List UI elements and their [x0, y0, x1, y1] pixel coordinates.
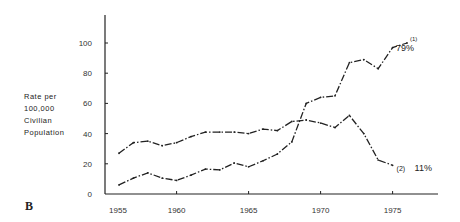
x-tick-label: 1960: [168, 206, 186, 215]
data-point: [377, 159, 379, 161]
data-point: [305, 103, 307, 105]
series-2-name: (2): [397, 165, 406, 173]
data-point: [334, 95, 336, 97]
data-point: [219, 169, 221, 171]
y-axis-label-line: Population: [24, 127, 64, 139]
data-point: [349, 62, 351, 64]
data-point: [291, 121, 293, 123]
data-point: [233, 162, 235, 164]
y-tick-label: 100: [79, 39, 93, 48]
data-point: [190, 136, 192, 138]
data-point: [133, 177, 135, 179]
series-1-name: (1): [410, 36, 417, 42]
data-point: [205, 168, 207, 170]
data-point: [161, 177, 163, 179]
data-point: [176, 180, 178, 182]
data-point: [320, 122, 322, 124]
data-point: [277, 153, 279, 155]
data-point: [305, 119, 307, 121]
data-point: [392, 164, 394, 166]
data-point: [363, 59, 365, 61]
data-point: [262, 160, 264, 162]
y-tick-label: 60: [83, 99, 92, 108]
series-2-annotation: 11%: [415, 163, 432, 173]
data-point: [377, 68, 379, 70]
series-line-2: [119, 115, 393, 165]
data-point: [248, 166, 250, 168]
data-point: [291, 141, 293, 143]
series-1-annotation: 79%: [396, 43, 414, 53]
y-axis-label-line: Rate per: [24, 91, 64, 103]
series-line-1: [119, 43, 407, 185]
data-point: [176, 142, 178, 144]
y-tick-label: 0: [88, 190, 93, 199]
x-tick-label: 1970: [312, 206, 330, 215]
y-axis-label-line: 100,000: [24, 103, 64, 115]
y-axis-label-line: Civilian: [24, 115, 64, 127]
y-tick-label: 20: [83, 160, 92, 169]
data-point: [392, 47, 394, 49]
data-point: [118, 152, 120, 154]
data-point: [320, 96, 322, 98]
data-point: [363, 133, 365, 135]
data-point: [262, 128, 264, 130]
y-tick-label: 40: [83, 130, 92, 139]
data-point: [349, 115, 351, 117]
data-point: [219, 131, 221, 133]
chart: 02040608010019551960196519701975(1)79%(2…: [0, 0, 460, 222]
data-point: [190, 174, 192, 176]
data-point: [147, 172, 149, 174]
panel-label: B: [25, 199, 33, 214]
x-tick-label: 1955: [109, 206, 127, 215]
data-point: [161, 145, 163, 147]
x-tick-label: 1975: [384, 206, 402, 215]
data-point: [334, 127, 336, 129]
data-point: [277, 130, 279, 132]
x-tick-label: 1965: [240, 206, 258, 215]
data-point: [147, 140, 149, 142]
data-point: [248, 133, 250, 135]
data-point: [133, 142, 135, 144]
data-point: [205, 131, 207, 133]
y-axis-label: Rate per 100,000 Civilian Population: [24, 91, 64, 139]
data-point: [233, 131, 235, 133]
y-tick-label: 80: [83, 69, 92, 78]
data-point: [118, 184, 120, 186]
